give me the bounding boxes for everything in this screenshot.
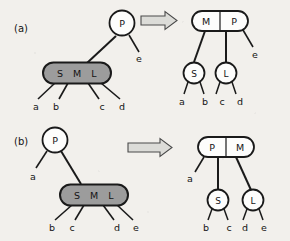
- leg-b-after-b: [208, 209, 212, 220]
- leaf-label-b-before-1: c: [69, 222, 74, 233]
- leg-b: [59, 83, 68, 99]
- leaf-label-e-after: e: [252, 49, 258, 60]
- panel-a: (a) e P S M L a b c d: [14, 11, 258, 113]
- leg-c: [88, 83, 99, 99]
- node-sml-key-s: S: [57, 68, 63, 79]
- panel-a-after-tree: e M P S L a b c d: [179, 11, 258, 107]
- leaf-label-b-before-3: e: [133, 222, 139, 233]
- edge-mp-to-s: [194, 31, 205, 62]
- edge-p-to-a: [36, 151, 47, 168]
- node-s-key-b: S: [215, 196, 221, 206]
- double-right-arrow-icon: [141, 12, 177, 30]
- leaf-label-a-b: a: [30, 171, 36, 182]
- leaf-label-b-after-3: e: [261, 222, 267, 233]
- leaf-label-a-after-b: a: [187, 173, 193, 184]
- node-pm-key-p: P: [209, 142, 215, 153]
- leaf-label-a-after: a: [179, 96, 185, 107]
- edge-mp-to-e: [243, 30, 253, 47]
- panel-b-transform-arrow: [128, 139, 172, 157]
- leaf-label-c-after: c: [219, 96, 224, 107]
- edge-p-to-e: [129, 35, 139, 52]
- node-sml-key-l: L: [91, 68, 97, 79]
- leaf-label-d-after: d: [237, 96, 243, 107]
- panel-b-after-tree: a P M S L b c d e: [187, 137, 267, 233]
- panel-a-label: (a): [14, 23, 28, 34]
- leaf-label-b-after-1: c: [226, 222, 231, 233]
- edge-pm-to-l: [236, 157, 251, 190]
- leaf-label-e: e: [136, 53, 142, 64]
- leg-d-after: [232, 82, 236, 94]
- leaf-label-b: b: [53, 101, 59, 112]
- btree-split-figure: (a) e P S M L a b c d: [0, 0, 290, 241]
- node-sml-key-s-b: S: [74, 190, 80, 201]
- leaf-label-b-before-0: b: [49, 222, 55, 233]
- leg-c-after: [216, 82, 220, 94]
- leg-d-b: [103, 205, 114, 220]
- leaf-label-b-before-2: d: [114, 222, 120, 233]
- leaf-label-b-after-0: b: [203, 222, 209, 233]
- node-pm-key-m: M: [236, 142, 244, 153]
- leg-c-b: [75, 205, 84, 220]
- leaf-label-b-after-2: d: [242, 222, 248, 233]
- leg-b-after: [200, 82, 204, 94]
- leg-a: [38, 83, 55, 99]
- node-sml-key-l-b: L: [108, 190, 114, 201]
- panel-b-before-tree: a P S M L b c d e: [30, 128, 139, 234]
- leaf-label-b-after: b: [202, 96, 208, 107]
- node-sml-key-m: M: [73, 68, 81, 79]
- panel-a-before-tree: e P S M L a b c d: [33, 11, 142, 113]
- node-s-key: S: [191, 69, 197, 79]
- leaf-label-c: c: [99, 101, 104, 112]
- edge-p-to-sml-b: [61, 151, 81, 184]
- node-l-key: L: [223, 69, 228, 79]
- leaf-label-d: d: [119, 101, 125, 112]
- node-mp-key-m: M: [202, 16, 210, 27]
- panel-a-transform-arrow: [141, 12, 177, 30]
- edge-pm-to-a: [195, 157, 204, 172]
- node-mp-key-p: P: [231, 16, 237, 27]
- leg-a-after: [184, 82, 188, 94]
- panel-b: (b) a P S M L b c d e: [14, 128, 267, 234]
- node-sml-key-m-b: M: [90, 190, 98, 201]
- leg-e-after-b: [259, 209, 263, 220]
- panel-b-label: (b): [14, 136, 28, 147]
- node-l-key-b: L: [250, 196, 255, 206]
- leg-b-b: [55, 205, 72, 220]
- node-p-key: P: [119, 18, 125, 29]
- leg-d-after-b: [243, 209, 247, 220]
- double-right-arrow-icon-b: [128, 139, 172, 157]
- leaf-label-a: a: [33, 101, 39, 112]
- leg-c-after-b: [224, 209, 228, 220]
- leg-d: [101, 83, 120, 99]
- node-p-key-b: P: [52, 135, 58, 146]
- edge-p-to-sml: [87, 36, 116, 63]
